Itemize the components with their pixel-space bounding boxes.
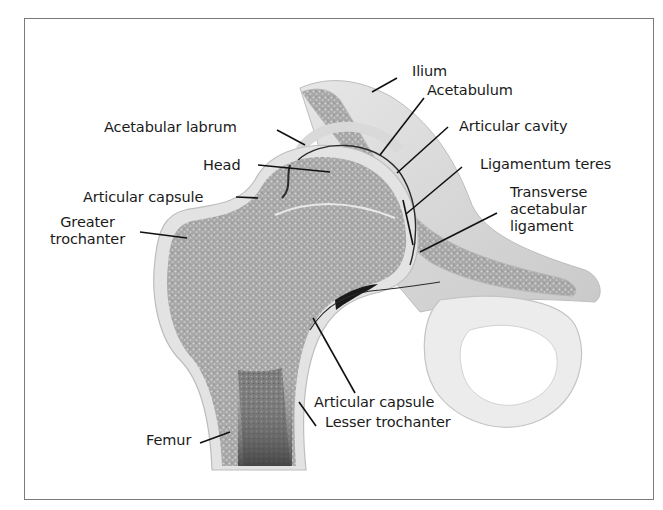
label-transverse-acetabular-ligament: Transverse acetabular ligament (510, 184, 587, 235)
label-articular-capsule-upper: Articular capsule (83, 189, 203, 206)
label-ligamentum-teres: Ligamentum teres (480, 156, 611, 173)
label-acetabulum: Acetabulum (427, 82, 513, 99)
label-head: Head (203, 157, 241, 174)
label-articular-capsule-lower: Articular capsule (314, 394, 434, 411)
label-lesser-trochanter: Lesser trochanter (325, 414, 451, 431)
label-acetabular-labrum: Acetabular labrum (104, 119, 237, 136)
label-greater-trochanter: Greater trochanter (50, 214, 125, 248)
label-femur: Femur (146, 432, 191, 449)
label-ilium: Ilium (412, 63, 447, 80)
label-articular-cavity: Articular cavity (459, 118, 567, 135)
hip-joint-illustration (0, 0, 663, 510)
